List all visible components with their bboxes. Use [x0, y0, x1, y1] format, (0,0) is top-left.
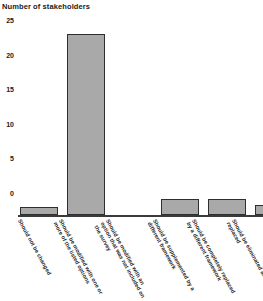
x-axis-labels: Should not be changed Should be modified… [0, 216, 263, 301]
y-axis: 25 20 15 10 5 0 [0, 18, 18, 216]
y-tick-label: 0 [10, 190, 14, 197]
bar-completely-replaced [208, 199, 246, 215]
bar-eliminated-not-replaced [255, 205, 263, 215]
bar-modified-listed-options [67, 34, 105, 215]
y-tick-label: 15 [6, 86, 14, 93]
y-tick-label: 20 [6, 51, 14, 58]
y-tick-label: 5 [10, 155, 14, 162]
y-tick-label: 10 [6, 120, 14, 127]
bars-layer [18, 18, 263, 215]
bar-supplemented-different [161, 199, 199, 215]
bar-chart: Number of stakeholders 25 20 15 10 5 0 S… [0, 0, 263, 301]
y-tick-label: 25 [6, 17, 14, 24]
chart-title: Number of stakeholders [2, 2, 90, 11]
bar-should-not-be-changed [20, 207, 58, 215]
